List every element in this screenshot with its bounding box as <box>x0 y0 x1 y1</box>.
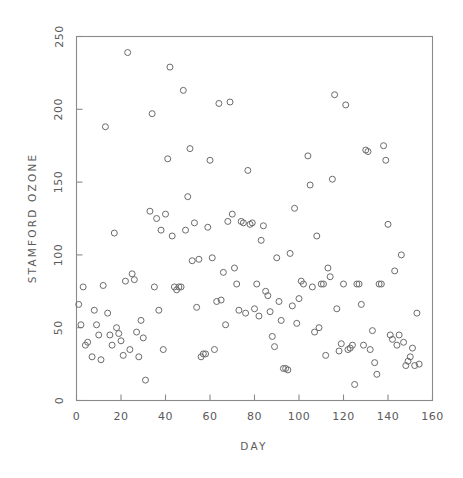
y-tick-label: 100 <box>53 244 66 267</box>
y-tick-label: 0 <box>53 397 66 405</box>
x-tick-label: 160 <box>421 410 444 423</box>
x-tick-label: 80 <box>247 410 262 423</box>
x-tick-label: 0 <box>73 410 81 423</box>
x-tick-label: 140 <box>377 410 400 423</box>
y-tick-label: 250 <box>53 25 66 48</box>
y-tick-label: 150 <box>53 171 66 194</box>
y-tick-label: 50 <box>53 320 66 335</box>
x-tick-label: 120 <box>332 410 355 423</box>
x-tick-label: 20 <box>114 410 129 423</box>
x-axis-tick-labels: 020406080100120140160 <box>73 410 444 423</box>
x-tick-label: 60 <box>203 410 218 423</box>
scatter-plot-figure: 020406080100120140160 050100150200250 DA… <box>0 0 463 478</box>
x-tick-label: 100 <box>288 410 311 423</box>
plot-canvas: 020406080100120140160 050100150200250 DA… <box>0 0 463 478</box>
x-axis-label: DAY <box>240 440 267 452</box>
y-tick-label: 200 <box>53 98 66 121</box>
figure-background <box>0 0 463 478</box>
y-axis-label: STAMFORD OZONE <box>26 153 38 284</box>
x-tick-label: 40 <box>158 410 173 423</box>
